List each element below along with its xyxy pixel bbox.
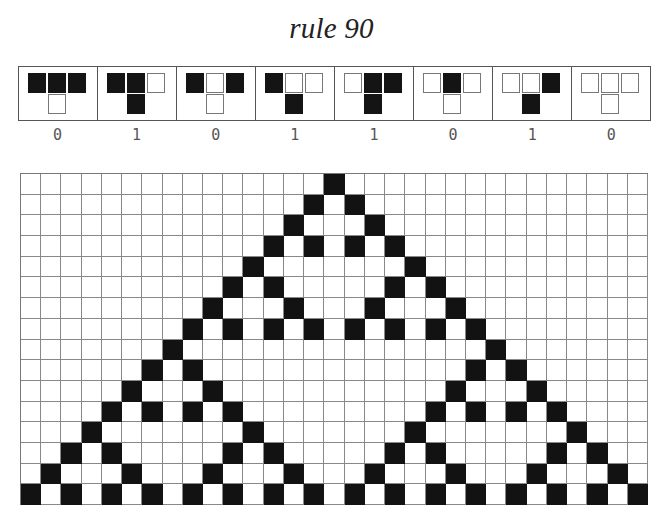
grid-cell <box>405 277 425 298</box>
grid-cell <box>284 381 304 402</box>
grid-cell <box>466 319 486 340</box>
grid-cell <box>203 195 223 216</box>
grid-cell <box>527 402 547 423</box>
grid-cell <box>385 422 405 443</box>
grid-cell <box>21 484 41 505</box>
grid-cell <box>163 381 183 402</box>
grid-cell <box>446 360 466 381</box>
grid-cell <box>426 298 446 319</box>
grid-cell <box>304 257 324 278</box>
rule-output-label: 0 <box>176 126 255 144</box>
grid-cell <box>41 360 61 381</box>
grid-cell <box>122 298 142 319</box>
grid-cell <box>446 319 466 340</box>
grid-cell <box>324 422 344 443</box>
grid-cell <box>426 422 446 443</box>
grid-cell <box>385 277 405 298</box>
grid-cell <box>102 402 122 423</box>
grid-cell <box>223 298 243 319</box>
rule-output-label: 1 <box>255 126 334 144</box>
grid-cell <box>365 319 385 340</box>
output-cell <box>206 94 224 114</box>
grid-cell <box>365 484 385 505</box>
grid-cell <box>385 402 405 423</box>
grid-cell <box>587 381 607 402</box>
grid-cell <box>486 215 506 236</box>
grid-cell <box>163 319 183 340</box>
grid-cell <box>163 443 183 464</box>
grid-cell <box>527 195 547 216</box>
grid-cell <box>82 277 102 298</box>
grid-cell <box>304 381 324 402</box>
grid-cell <box>304 484 324 505</box>
grid-cell <box>365 298 385 319</box>
grid-cell <box>385 257 405 278</box>
grid-cell <box>82 464 102 485</box>
grid-cell <box>264 464 284 485</box>
grid-cell <box>547 195 567 216</box>
grid-cell <box>587 257 607 278</box>
grid-cell <box>345 319 365 340</box>
grid-cell <box>345 340 365 361</box>
grid-cell <box>264 257 284 278</box>
grid-cell <box>587 298 607 319</box>
grid-cell <box>486 298 506 319</box>
grid-cell <box>446 277 466 298</box>
output-cell <box>601 94 619 114</box>
grid-cell <box>506 215 526 236</box>
grid-cell <box>21 277 41 298</box>
grid-cell <box>547 340 567 361</box>
grid-cell <box>324 402 344 423</box>
grid-cell <box>183 298 203 319</box>
grid-cell <box>405 319 425 340</box>
grid-cell <box>41 422 61 443</box>
grid-cell <box>506 381 526 402</box>
grid-cell <box>385 195 405 216</box>
neighborhood-cell <box>305 73 323 93</box>
neighborhood-cell <box>28 73 46 93</box>
grid-cell <box>587 215 607 236</box>
grid-cell <box>446 422 466 443</box>
grid-cell <box>628 464 648 485</box>
grid-cell <box>243 484 263 505</box>
grid-cell <box>41 195 61 216</box>
grid-cell <box>547 360 567 381</box>
output-cell <box>443 94 461 114</box>
grid-cell <box>223 195 243 216</box>
grid-cell <box>446 484 466 505</box>
grid-cell <box>163 215 183 236</box>
grid-cell <box>385 484 405 505</box>
grid-cell <box>304 236 324 257</box>
grid-cell <box>587 319 607 340</box>
grid-cell <box>628 484 648 505</box>
grid-cell <box>304 215 324 236</box>
grid-cell <box>183 257 203 278</box>
grid-cell <box>21 402 41 423</box>
grid-cell <box>506 360 526 381</box>
grid-cell <box>142 464 162 485</box>
grid-cell <box>284 236 304 257</box>
neighborhood-cell <box>364 73 382 93</box>
grid-cell <box>324 174 344 195</box>
grid-cell <box>61 319 81 340</box>
grid-cell <box>284 422 304 443</box>
grid-cell <box>142 319 162 340</box>
grid-cell <box>486 174 506 195</box>
grid-cell <box>486 422 506 443</box>
grid-cell <box>102 484 122 505</box>
grid-cell <box>41 443 61 464</box>
grid-cell <box>506 277 526 298</box>
grid-cell <box>243 215 263 236</box>
grid-cell <box>203 298 223 319</box>
grid-cell <box>628 215 648 236</box>
neighborhood-cell <box>502 73 520 93</box>
grid-cell <box>365 236 385 257</box>
grid-cell <box>547 174 567 195</box>
grid-cell <box>426 319 446 340</box>
grid-cell <box>304 422 324 443</box>
grid-cell <box>142 277 162 298</box>
grid-cell <box>324 464 344 485</box>
grid-cell <box>41 174 61 195</box>
grid-cell <box>82 298 102 319</box>
grid-cell <box>506 484 526 505</box>
